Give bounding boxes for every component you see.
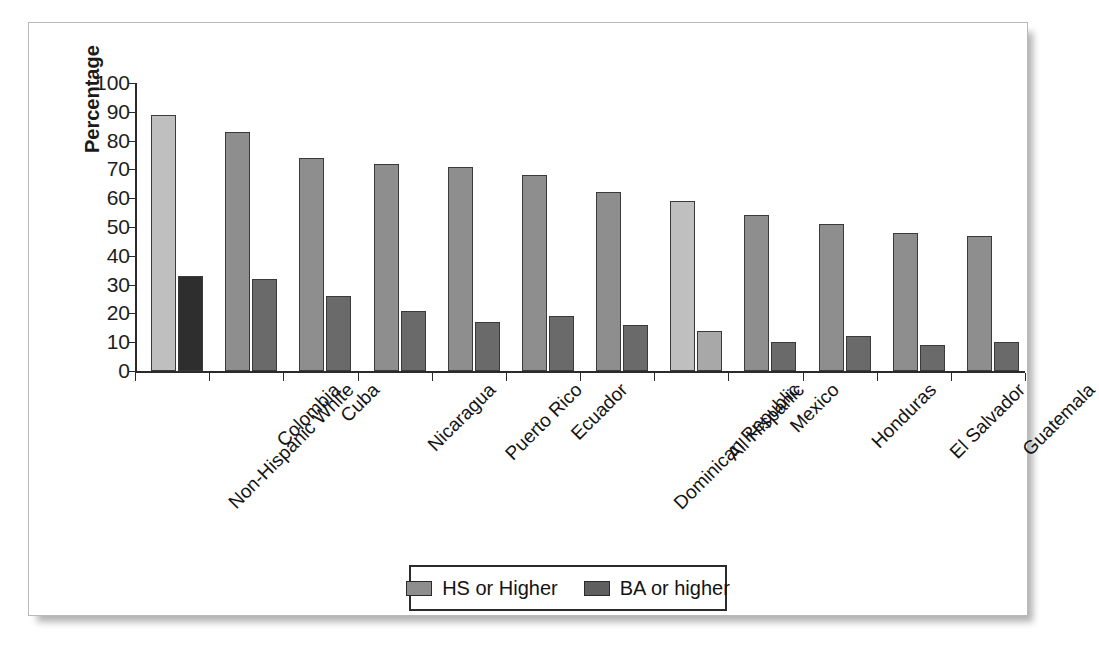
bar-hs-or-higher[interactable]: [522, 175, 547, 371]
bar-hs-or-higher[interactable]: [744, 215, 769, 371]
x-tick-mark: [951, 373, 952, 381]
y-tick-label: 0: [84, 358, 130, 384]
bar-hs-or-higher[interactable]: [448, 167, 473, 371]
bar-ba-or-higher[interactable]: [846, 336, 871, 371]
y-tick-label: 50: [84, 214, 130, 240]
chart-figure-frame: Percentage 1009080706050403020100 Non-Hi…: [28, 22, 1028, 616]
bar-ba-or-higher[interactable]: [401, 311, 426, 371]
y-tick-label: 90: [84, 99, 130, 125]
y-tick-label: 40: [84, 243, 130, 269]
bar-ba-or-higher[interactable]: [475, 322, 500, 371]
x-tick-mark: [580, 373, 581, 381]
x-tick-mark: [1025, 373, 1026, 381]
y-tick-label: 80: [84, 128, 130, 154]
y-tick-label: 70: [84, 156, 130, 182]
bar-ba-or-higher[interactable]: [771, 342, 796, 371]
x-tick-mark: [654, 373, 655, 381]
bar-hs-or-higher[interactable]: [819, 224, 844, 371]
x-tick-mark: [135, 373, 136, 381]
x-tick-mark: [432, 373, 433, 381]
bar-hs-or-higher[interactable]: [596, 192, 621, 371]
x-category-label: Honduras: [867, 379, 941, 453]
bar-ba-or-higher[interactable]: [697, 331, 722, 371]
bar-ba-or-higher[interactable]: [920, 345, 945, 371]
y-tick-label: 20: [84, 300, 130, 326]
plot-area: 1009080706050403020100: [135, 83, 1025, 373]
legend-label-hs: HS or Higher: [442, 577, 558, 600]
x-tick-mark: [803, 373, 804, 381]
x-tick-mark: [877, 373, 878, 381]
y-tick-label: 60: [84, 185, 130, 211]
bar-hs-or-higher[interactable]: [374, 164, 399, 371]
x-category-label: Guatemala: [1018, 379, 1099, 460]
y-tick-label: 30: [84, 272, 130, 298]
bar-ba-or-higher[interactable]: [549, 316, 574, 371]
chart-legend: HS or Higher BA or higher: [409, 565, 727, 611]
x-category-label: Nicaragua: [423, 379, 500, 456]
bar-ba-or-higher[interactable]: [252, 279, 277, 371]
bar-ba-or-higher[interactable]: [326, 296, 351, 371]
x-tick-mark: [728, 373, 729, 381]
x-tick-mark: [506, 373, 507, 381]
legend-swatch-hs-icon: [406, 581, 432, 596]
bar-hs-or-higher[interactable]: [151, 115, 176, 371]
bar-hs-or-higher[interactable]: [225, 132, 250, 371]
y-tick-label: 100: [84, 70, 130, 96]
bar-ba-or-higher[interactable]: [178, 276, 203, 371]
y-tick-label: 10: [84, 329, 130, 355]
x-tick-mark: [283, 373, 284, 381]
bar-hs-or-higher[interactable]: [299, 158, 324, 371]
y-axis-line: [135, 83, 137, 373]
x-tick-mark: [358, 373, 359, 381]
bar-ba-or-higher[interactable]: [623, 325, 648, 371]
legend-swatch-ba-icon: [584, 581, 610, 596]
bar-hs-or-higher[interactable]: [967, 236, 992, 371]
bar-ba-or-higher[interactable]: [994, 342, 1019, 371]
bar-hs-or-higher[interactable]: [670, 201, 695, 371]
x-category-label: El Salvador: [945, 379, 1029, 463]
legend-item-hs[interactable]: HS or Higher: [406, 577, 558, 600]
bar-hs-or-higher[interactable]: [893, 233, 918, 371]
x-tick-mark: [209, 373, 210, 381]
legend-label-ba: BA or higher: [620, 577, 730, 600]
legend-item-ba[interactable]: BA or higher: [584, 577, 730, 600]
